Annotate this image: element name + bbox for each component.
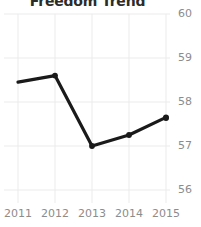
grid-lines-horizontal [4, 14, 170, 190]
data-point-2011 [52, 73, 58, 79]
x-tick-label-2015: 2015 [146, 207, 186, 220]
x-tick-label-2014: 2014 [109, 207, 149, 220]
y-tick-label-59: 59 [178, 51, 192, 64]
y-tick-label-56: 56 [178, 183, 192, 196]
grid-lines-vertical [18, 14, 166, 203]
data-point-2012 [89, 143, 95, 149]
x-tick-label-2012: 2012 [35, 207, 75, 220]
data-point-2013 [126, 132, 132, 138]
data-point-2015 [163, 115, 169, 121]
x-tick-label-2011: 2011 [0, 207, 38, 220]
plot-area [0, 0, 201, 227]
x-tick-label-2013: 2013 [72, 207, 112, 220]
data-point-markers [52, 73, 169, 149]
y-tick-label-60: 60 [178, 7, 192, 20]
y-tick-label-57: 57 [178, 139, 192, 152]
chart-container: Freedom Trend 60 59 58 57 56 2011 [0, 0, 201, 227]
y-tick-label-58: 58 [178, 95, 192, 108]
